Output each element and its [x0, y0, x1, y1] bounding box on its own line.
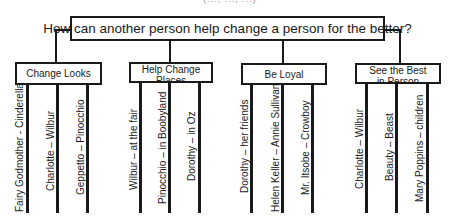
leaf-label: Beauty – Beast: [384, 113, 395, 181]
leaf-label: Charlotte – Wilbur: [45, 111, 56, 191]
branch-box-change-looks: Change Looks: [15, 62, 102, 85]
connector-branch-3: [282, 39, 284, 64]
leaf-line: [281, 84, 284, 213]
leaf-line: [26, 84, 29, 213]
branch-box-be-loyal: Be Loyal: [241, 63, 327, 85]
leaf-line: [168, 82, 171, 213]
leaf-label: Mr. Itsobe – Crowboy: [300, 101, 311, 195]
leaf-line: [139, 82, 142, 213]
leaf-line: [250, 84, 253, 213]
leaf-label: Fairy Godmother - Cinderella: [14, 83, 25, 212]
leaf-label: Geppetto – Pinocchio: [75, 99, 86, 195]
branch-label: Help Change Places: [141, 64, 201, 83]
leaf-label: Charlotte – Wilbur: [354, 109, 365, 189]
leaf-line: [56, 84, 59, 213]
leaf-line: [198, 82, 201, 213]
leaf-line: [395, 83, 398, 213]
leaf-label: Helen Keller – Annie Sullivan: [270, 84, 281, 212]
leaf-label: Mary Poppins – children: [414, 95, 425, 202]
leaf-line: [365, 83, 368, 213]
branch-box-see-the-best: See the Best in Person: [355, 63, 441, 84]
leaf-label: Dorothy – her friends: [239, 100, 250, 193]
leaf-line: [86, 84, 89, 213]
branch-label: See the Best in Person: [368, 65, 428, 84]
leaf-label: Wilbur – at the fair: [128, 109, 139, 190]
branch-label: Be Loyal: [265, 69, 304, 80]
leaf-label: Pinocchio – in Boobyland: [157, 92, 168, 204]
root-question-box: How can another person help change a per…: [70, 16, 385, 41]
branch-label: Change Looks: [26, 68, 91, 79]
leaf-label: Dorothy – in Oz: [186, 112, 197, 181]
branch-box-help-change-places: Help Change Places: [129, 62, 213, 83]
connector-branch-2: [169, 39, 171, 63]
root-question-text: How can another person help change a per…: [43, 21, 412, 36]
leaf-line: [426, 83, 429, 213]
cropped-caption: (..., ..., ...): [190, 0, 270, 2]
leaf-line: [311, 84, 314, 213]
